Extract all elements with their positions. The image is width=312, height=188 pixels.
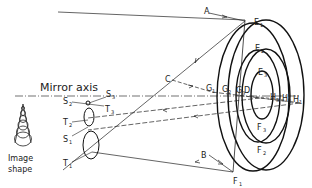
label-b: B <box>201 151 207 160</box>
svg-text:S: S <box>63 135 68 144</box>
svg-text:T: T <box>62 159 68 168</box>
svg-text:2: 2 <box>69 122 72 128</box>
svg-text:E: E <box>255 44 260 53</box>
svg-text:3: 3 <box>242 90 245 96</box>
label-s2: S2 <box>63 97 72 107</box>
ray-c-arrow-icon <box>188 85 193 88</box>
image-ellipses <box>83 101 99 159</box>
mirror-axis-label: Mirror axis <box>40 81 98 94</box>
svg-text:2: 2 <box>69 101 72 107</box>
label-t2: T2 <box>62 118 72 128</box>
svg-text:1: 1 <box>299 99 302 105</box>
ray-diagram: Mirror axis <box>0 0 312 188</box>
ray-g-arrow-icon <box>163 109 167 112</box>
svg-text:1: 1 <box>239 181 242 187</box>
ray-h-dashed-lower <box>88 103 300 130</box>
svg-text:E: E <box>254 18 259 27</box>
leader-lines <box>72 97 106 162</box>
svg-text:3: 3 <box>263 127 266 133</box>
label-e2: E2 <box>255 44 264 54</box>
svg-text:F: F <box>233 177 238 186</box>
label-s3: S3 <box>106 90 115 100</box>
label-e1: E1 <box>254 18 263 28</box>
ray-a <box>58 12 245 20</box>
svg-text:E: E <box>258 68 263 77</box>
svg-text:3: 3 <box>264 72 267 78</box>
label-f1: F1 <box>233 177 242 187</box>
image-shape-label-2: shape <box>8 165 32 174</box>
label-h3: H3 <box>270 93 279 103</box>
label-c: C <box>165 75 171 84</box>
ray-f1-arrow-icon <box>195 160 200 163</box>
ray-reflected-f1 <box>92 152 233 172</box>
label-f3: F3 <box>257 123 266 133</box>
svg-text:2: 2 <box>228 89 231 95</box>
svg-text:F: F <box>257 146 262 155</box>
label-t1: T1 <box>62 159 72 169</box>
svg-text:3: 3 <box>276 97 279 103</box>
svg-text:1: 1 <box>212 88 215 94</box>
svg-text:3: 3 <box>112 94 115 100</box>
svg-text:1: 1 <box>69 163 72 169</box>
ray-g-dashed-upper <box>88 98 260 118</box>
svg-text:1: 1 <box>260 22 263 28</box>
image-shape-icon <box>15 104 32 146</box>
svg-text:2: 2 <box>263 150 266 156</box>
svg-text:3: 3 <box>111 109 114 115</box>
label-e3: E3 <box>258 68 267 78</box>
ray-e1-arrow-icon <box>195 58 199 63</box>
svg-text:S: S <box>63 97 68 106</box>
label-g2: G2 <box>222 85 231 95</box>
svg-text:1: 1 <box>69 139 72 145</box>
label-a: A <box>204 7 210 16</box>
svg-text:2: 2 <box>288 98 291 104</box>
label-f2: F2 <box>257 146 266 156</box>
label-h1: H1 <box>293 95 302 105</box>
label-g1: G1 <box>206 84 215 94</box>
svg-text:T: T <box>62 118 68 127</box>
ray-h-arrow-icon <box>194 115 198 118</box>
label-t3: T3 <box>104 105 114 115</box>
svg-text:T: T <box>104 105 110 114</box>
svg-text:S: S <box>106 90 111 99</box>
label-s1: S1 <box>63 135 72 145</box>
svg-text:F: F <box>257 123 262 132</box>
svg-text:2: 2 <box>261 48 264 54</box>
image-shape-label-1: Image <box>8 154 33 163</box>
